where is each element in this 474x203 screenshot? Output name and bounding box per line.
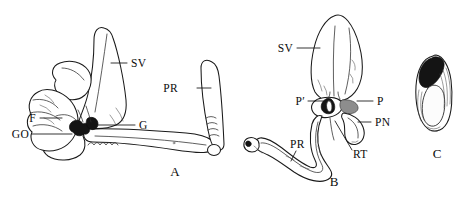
- label-a-g: G: [139, 119, 148, 131]
- panel-a-pr-bulb: [208, 145, 221, 156]
- panel-b-penis-right-lobe: [340, 100, 358, 114]
- panel-letter-c: C: [433, 146, 442, 161]
- panel-a-junction-dark-2: [86, 117, 98, 129]
- label-a-go: GO: [12, 128, 29, 140]
- label-b-rt: RT: [353, 148, 368, 160]
- panel-a-duct: [83, 129, 214, 153]
- label-a-pr: PR: [163, 82, 178, 94]
- panel-letter-a: A: [170, 164, 180, 179]
- label-a-f: F: [29, 112, 36, 124]
- figure-illustration: SV PR F GO G A: [0, 0, 474, 203]
- panel-a-crenulations: [88, 143, 118, 146]
- panel-b-sv: [311, 15, 362, 102]
- panel-b-penis-inner-pale: [327, 101, 333, 112]
- panel-b-pr-tip-pore: [246, 141, 252, 147]
- label-a-sv: SV: [131, 57, 147, 69]
- panel-b-pn: [342, 113, 365, 145]
- label-b-sv: SV: [278, 42, 294, 54]
- panel-letter-b: B: [330, 174, 339, 189]
- panel-c-drawing: C: [416, 55, 452, 161]
- label-b-pn: PN: [375, 116, 391, 128]
- panel-c-inner-pale: [422, 85, 445, 126]
- figure-root: SV PR F GO G A: [0, 0, 474, 203]
- label-b-pr: PR: [290, 138, 305, 150]
- label-b-p-prime: P′: [295, 95, 305, 107]
- label-b-p: P: [377, 95, 384, 107]
- panel-a-drawing: [27, 28, 224, 160]
- panel-b-rt-strand: [330, 118, 334, 140]
